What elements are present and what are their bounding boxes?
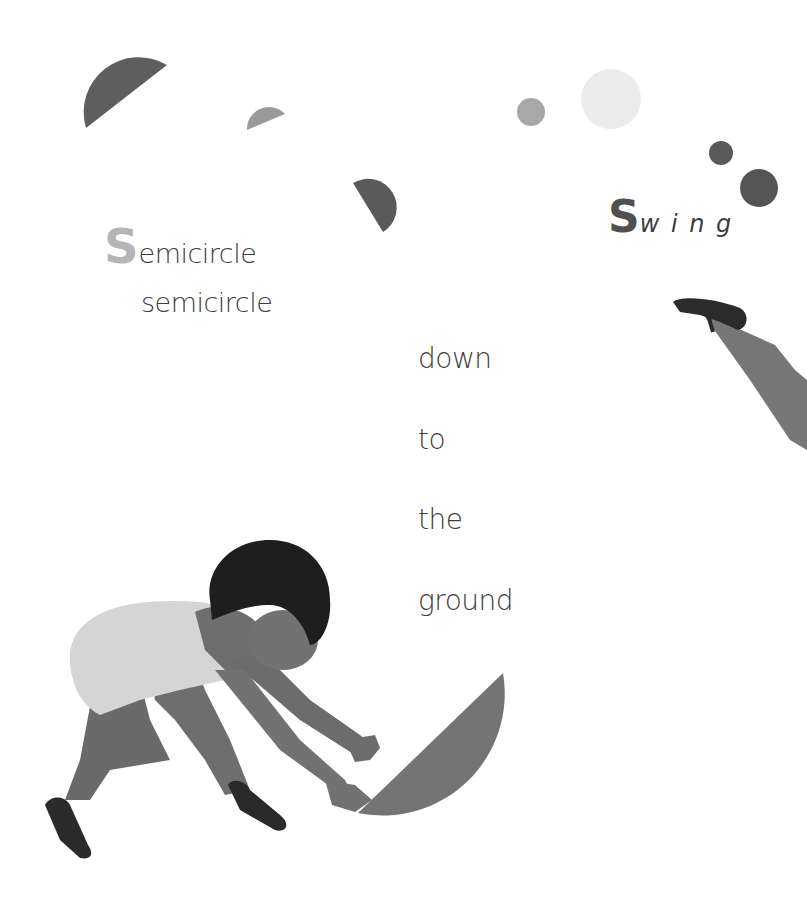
circle-dark-medium	[740, 169, 778, 207]
poem-line-1: Semicircle	[104, 222, 256, 270]
swing-heading: Sw i n g	[608, 195, 733, 239]
illustration	[0, 0, 807, 913]
word-to: to	[418, 423, 445, 456]
circle-dark-small	[709, 141, 733, 165]
swing-drop-cap: S	[608, 191, 640, 242]
circle-small-gray	[517, 98, 545, 126]
word-ground: ground	[418, 584, 513, 617]
drop-cap-s: S	[104, 218, 139, 274]
leg-top-right	[673, 298, 807, 450]
semicircle-top-left	[84, 57, 167, 128]
poem-line-2: semicircle	[141, 287, 272, 318]
child-figure	[45, 540, 380, 858]
semicircle-middle	[353, 179, 397, 232]
swing-rest: w i n g	[640, 210, 734, 238]
word-the: the	[418, 503, 462, 536]
semicircle-small	[247, 107, 285, 130]
word-down: down	[418, 342, 492, 375]
semicircle-large	[358, 673, 505, 816]
word-emicircle: emicircle	[139, 238, 257, 269]
circle-light	[581, 69, 641, 129]
